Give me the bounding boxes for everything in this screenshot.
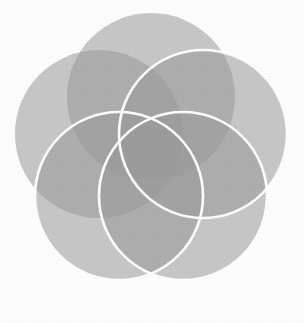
figure-canvas: Overlapping translucent circles rosette … <box>0 0 304 323</box>
overlapping-circles-diagram: Overlapping translucent circles rosette … <box>0 0 304 323</box>
